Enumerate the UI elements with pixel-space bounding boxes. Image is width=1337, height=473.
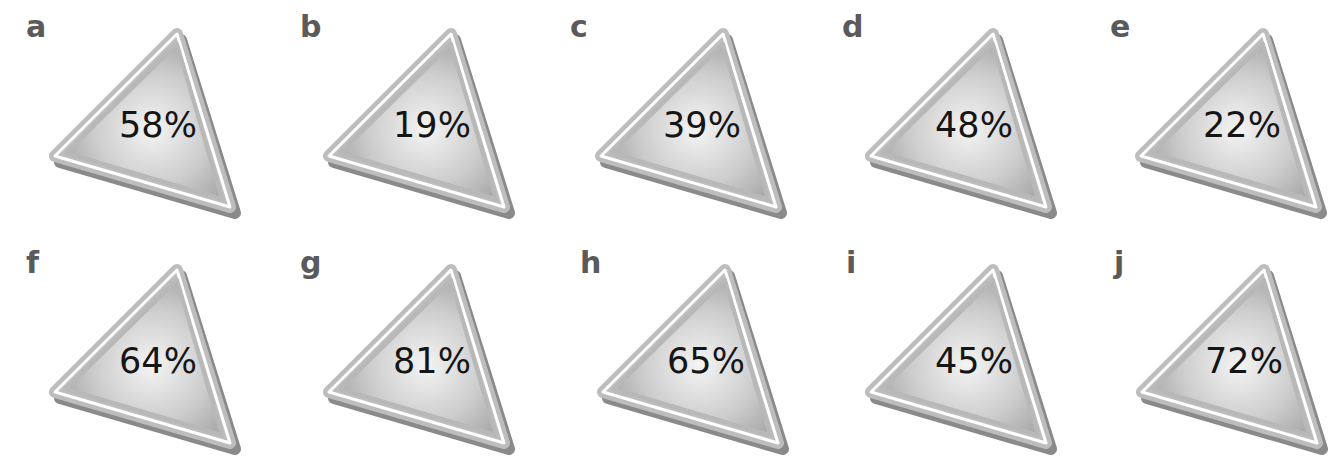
percentage-value: 72% [1186,344,1302,379]
panel-e: e 22% [1084,0,1337,235]
panel-i: i 45% [816,236,1086,471]
panel-f: f 64% [0,236,270,471]
panel-a: a 58% [0,0,270,235]
panel-j: j 72% [1084,236,1337,471]
panel-label: d [842,12,863,42]
percentage-value: 22% [1184,108,1300,143]
percentage-value: 39% [644,108,760,143]
panel-h: h 65% [548,236,818,471]
panel-c: c 39% [544,0,814,235]
percentage-value: 48% [916,108,1032,143]
percentage-value: 81% [374,344,490,379]
percentage-value: 64% [100,344,216,379]
percentage-value: 45% [916,344,1032,379]
percentage-value: 65% [648,344,764,379]
panel-d: d 48% [816,0,1086,235]
panel-label: g [300,248,321,278]
panel-label: b [300,12,321,42]
panel-label: c [570,12,588,42]
panel-label: e [1110,12,1130,42]
panel-label: j [1114,248,1124,278]
panel-label: h [580,248,601,278]
panel-label: a [26,12,46,42]
panel-label: i [846,248,856,278]
panel-b: b 19% [274,0,544,235]
percentage-value: 58% [100,108,216,143]
percentage-value: 19% [374,108,490,143]
panel-g: g 81% [274,236,544,471]
panel-label: f [26,248,39,278]
